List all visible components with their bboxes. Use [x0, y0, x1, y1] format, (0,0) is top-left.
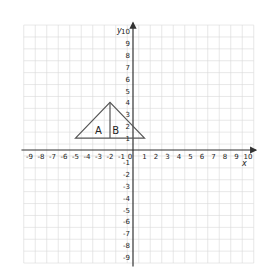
- x-tick-label: -6: [61, 153, 69, 161]
- x-tick-label: -8: [38, 153, 45, 161]
- x-tick-label: 5: [188, 153, 192, 161]
- y-tick-label: -7: [123, 230, 130, 238]
- y-tick-label: -5: [123, 207, 130, 215]
- x-tick-label: 4: [177, 153, 182, 161]
- y-tick-label: 9: [126, 40, 130, 48]
- x-tick-label: -4: [84, 153, 92, 161]
- tick-labels: -9-8-7-6-5-4-3-2-10123456789101098765432…: [26, 28, 252, 262]
- x-axis-label: x: [241, 159, 247, 168]
- y-tick-label: 1: [126, 135, 130, 143]
- y-tick-label: 7: [126, 64, 130, 72]
- y-tick-label: 3: [126, 111, 130, 119]
- x-tick-label: -3: [95, 153, 102, 161]
- y-tick-label: 10: [121, 28, 130, 36]
- y-tick-label: -1: [123, 159, 130, 167]
- x-tick-label: 3: [165, 153, 169, 161]
- x-tick-label: -2: [107, 153, 114, 161]
- x-tick-label: -7: [49, 153, 56, 161]
- y-tick-label: -2: [123, 171, 130, 179]
- coordinate-grid-figure: AB -9-8-7-6-5-4-3-2-10123456789101098765…: [0, 0, 268, 275]
- coordinate-plane: AB -9-8-7-6-5-4-3-2-10123456789101098765…: [0, 0, 268, 275]
- x-tick-label: 1: [142, 153, 146, 161]
- y-tick-label: -4: [123, 195, 131, 203]
- y-tick-label: -9: [123, 254, 130, 262]
- grid-lines: [24, 25, 254, 263]
- x-tick-label: 6: [200, 153, 205, 161]
- y-tick-label: -6: [123, 218, 131, 226]
- y-tick-label: 5: [126, 88, 130, 96]
- y-axis-label: y: [116, 26, 122, 35]
- x-tick-label: 9: [234, 153, 238, 161]
- y-tick-label: 4: [126, 99, 131, 107]
- x-tick-label: 7: [211, 153, 215, 161]
- y-tick-label: -3: [123, 183, 130, 191]
- x-tick-label: 2: [154, 153, 158, 161]
- x-tick-label: -5: [72, 153, 79, 161]
- y-tick-label: -8: [123, 242, 130, 250]
- x-tick-label: 8: [223, 153, 227, 161]
- y-tick-label: 2: [126, 123, 130, 131]
- region-label-b: B: [112, 125, 119, 136]
- y-tick-label: 6: [126, 76, 131, 84]
- x-tick-label: -9: [26, 153, 33, 161]
- y-tick-label: 8: [126, 52, 130, 60]
- region-label-a: A: [95, 125, 102, 136]
